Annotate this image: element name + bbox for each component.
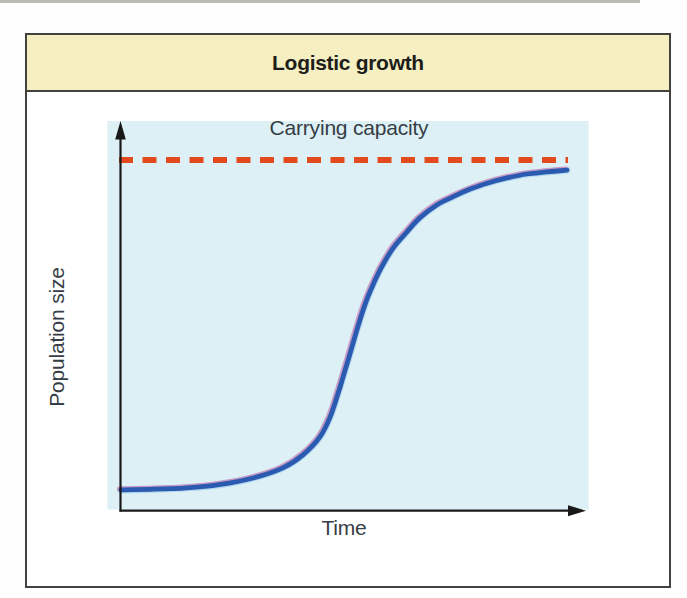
y-axis-label: Population size [45, 267, 69, 406]
carrying-capacity-label: Carrying capacity [270, 116, 429, 140]
page: Logistic growth Carrying capacity Time P… [0, 0, 687, 598]
x-axis-label: Time [321, 516, 366, 540]
logistic-growth-chart [0, 0, 687, 598]
